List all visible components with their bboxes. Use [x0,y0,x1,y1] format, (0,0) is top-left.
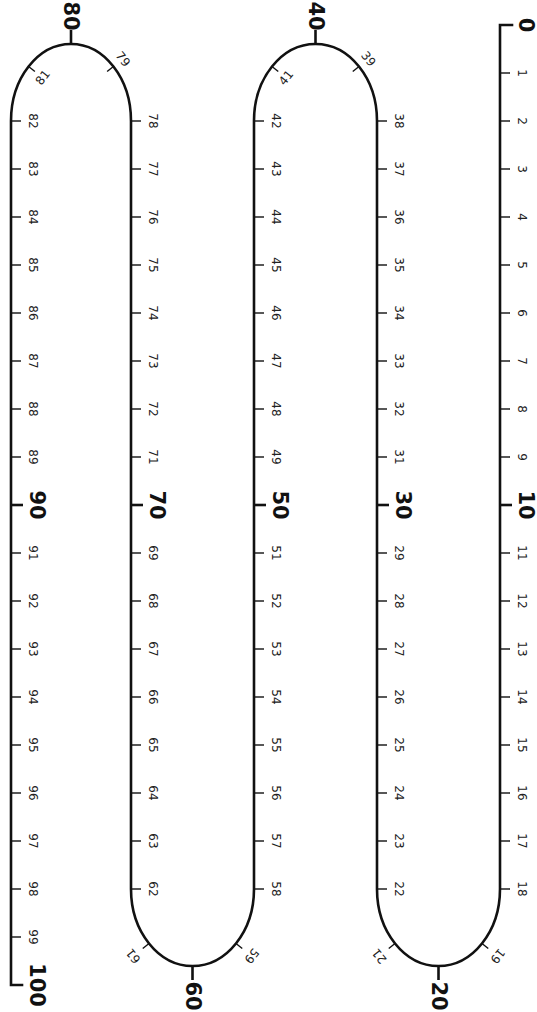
label-78: 78 [146,113,160,128]
label-19: 19 [487,946,507,967]
label-66: 66 [146,689,160,704]
label-38: 38 [392,113,406,128]
label-16: 16 [515,785,529,800]
label-42: 42 [269,113,283,128]
label-25: 25 [392,737,406,752]
label-11: 11 [515,545,529,560]
label-34: 34 [392,305,406,320]
label-30: 30 [391,490,415,519]
label-5: 5 [515,261,529,269]
label-71: 71 [146,449,160,464]
label-54: 54 [269,689,283,704]
label-74: 74 [146,305,160,320]
label-67: 67 [146,641,160,656]
label-51: 51 [269,545,283,560]
label-8: 8 [515,405,529,413]
label-57: 57 [269,833,283,848]
label-99: 99 [26,929,40,944]
label-62: 62 [146,881,160,896]
tick-labels: 0123456789101112131415161718192021222324… [25,1,537,1010]
label-37: 37 [392,161,406,176]
label-82: 82 [26,113,40,128]
label-18: 18 [515,881,529,896]
label-75: 75 [146,257,160,272]
label-52: 52 [269,593,283,608]
label-83: 83 [26,161,40,176]
label-55: 55 [269,737,283,752]
tick-39 [353,67,359,72]
label-27: 27 [392,641,406,656]
tick-81 [29,67,35,72]
label-88: 88 [26,401,40,416]
label-76: 76 [146,209,160,224]
label-28: 28 [392,593,406,608]
label-40: 40 [304,1,328,30]
label-86: 86 [26,305,40,320]
label-2: 2 [515,117,529,125]
label-53: 53 [269,641,283,656]
label-70: 70 [145,490,169,519]
label-32: 32 [392,401,406,416]
label-81: 81 [33,67,53,88]
label-7: 7 [515,357,529,365]
label-17: 17 [515,833,529,848]
tick-19 [482,943,488,948]
label-64: 64 [146,785,160,800]
label-45: 45 [269,257,283,272]
label-85: 85 [26,257,40,272]
tick-61 [143,943,149,948]
label-65: 65 [146,737,160,752]
label-47: 47 [269,353,283,368]
label-22: 22 [392,881,406,896]
label-49: 49 [269,449,283,464]
label-89: 89 [26,449,40,464]
label-63: 63 [146,833,160,848]
label-10: 10 [514,490,537,519]
label-61: 61 [123,946,143,967]
label-12: 12 [515,593,529,608]
label-98: 98 [26,881,40,896]
label-73: 73 [146,353,160,368]
label-97: 97 [26,833,40,848]
label-6: 6 [515,309,529,317]
label-9: 9 [515,453,529,461]
label-23: 23 [392,833,406,848]
label-24: 24 [392,785,406,800]
label-13: 13 [515,641,529,656]
tick-59 [236,943,242,948]
label-36: 36 [392,209,406,224]
label-26: 26 [392,689,406,704]
label-95: 95 [26,737,40,752]
label-31: 31 [392,449,406,464]
label-21: 21 [369,946,389,967]
label-79: 79 [113,49,133,70]
label-20: 20 [427,981,451,1010]
tick-21 [389,943,395,948]
label-80: 80 [59,1,83,30]
label-84: 84 [26,209,40,224]
label-92: 92 [26,593,40,608]
label-100: 100 [25,963,49,1007]
label-48: 48 [269,401,283,416]
label-0: 0 [514,18,537,33]
label-33: 33 [392,353,406,368]
label-69: 69 [146,545,160,560]
label-3: 3 [515,165,529,173]
label-56: 56 [269,785,283,800]
label-35: 35 [392,257,406,272]
label-41: 41 [276,67,296,88]
label-96: 96 [26,785,40,800]
label-59: 59 [241,946,261,967]
label-1: 1 [515,69,529,77]
label-44: 44 [269,209,283,224]
label-58: 58 [269,881,283,896]
label-50: 50 [268,490,292,519]
tick-marks [11,30,512,980]
label-68: 68 [146,593,160,608]
label-39: 39 [358,49,378,70]
label-87: 87 [26,353,40,368]
label-94: 94 [26,689,40,704]
tick-41 [272,67,278,72]
label-77: 77 [146,161,160,176]
label-91: 91 [26,545,40,560]
